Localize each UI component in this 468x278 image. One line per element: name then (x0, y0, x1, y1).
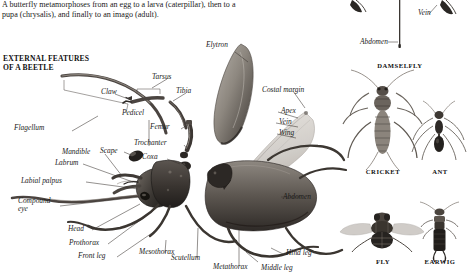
detached-trochanter (180, 152, 188, 158)
label-trochanter: Trochanter (134, 139, 167, 147)
label-abdomen-beetle: Abdomen (283, 193, 311, 201)
caption-damselfly: DAMSELFLY (350, 62, 450, 69)
label-tarsus: Tarsus (152, 73, 171, 81)
label-mesothorax: Mesothorax (139, 248, 174, 256)
label-tibia: Tibia (176, 87, 191, 95)
caption-earwig: EARWIG (415, 258, 465, 265)
earwig-figure (420, 202, 459, 262)
label-scape: Scape (100, 147, 118, 155)
label-middle-leg: Middle leg (261, 264, 293, 272)
label-vein-damselfly: Vein (418, 9, 431, 17)
detached-coxa (179, 161, 191, 170)
beetle-anatomy-page: A butterfly metamorphoses from an egg to… (0, 0, 468, 278)
label-labial-palpus: Labial palpus (21, 177, 62, 185)
beetle-head (113, 169, 173, 208)
detached-leg-tibia (169, 101, 186, 128)
label-abdomen-damselfly: Abdomen (360, 38, 388, 46)
label-apex: Apex (281, 107, 296, 115)
label-scutellum: Scutellum (171, 254, 200, 262)
membranous-wing (238, 111, 314, 190)
ant-figure (412, 101, 466, 160)
label-labrum: Labrum (55, 159, 78, 167)
label-flagellum: Flagellum (14, 124, 44, 132)
fly-figure (340, 213, 424, 253)
label-claw: Claw (101, 88, 117, 96)
label-coxa: Coxa (142, 153, 158, 161)
caption-cricket: CRICKET (352, 168, 414, 175)
intro-paragraph: A butterfly metamorphoses from an egg to… (2, 0, 252, 21)
caption-ant: ANT (421, 168, 459, 175)
label-hind-leg: Hind leg (286, 249, 312, 257)
prothorax-segment (151, 160, 190, 207)
label-compound-eye: Compound eye (18, 197, 62, 213)
label-mandible: Mandible (62, 148, 90, 156)
detached-femur (186, 120, 192, 150)
label-costal-margin: Costal margin (262, 86, 304, 94)
page-title: EXTERNAL FEATURES OF A BEETLE (3, 55, 123, 72)
cricket-figure (343, 70, 422, 170)
detached-leg-tarsus (123, 89, 163, 103)
label-femur: Femur (150, 123, 170, 131)
label-head: Head (68, 225, 84, 233)
section-title-line-2: OF A BEETLE (3, 63, 54, 72)
label-metathorax: Metathorax (213, 263, 247, 271)
label-vein-beetle: Vein (279, 118, 292, 126)
label-elytron: Elytron (206, 41, 228, 49)
label-pedicel: Pedicel (122, 109, 144, 117)
caption-fly: FLY (362, 258, 404, 265)
label-prothorax: Prothorax (69, 239, 99, 247)
label-wing: Wing (279, 129, 294, 137)
beetle-artwork (0, 0, 468, 278)
elytron-wingcase (214, 44, 253, 144)
label-front-leg: Front leg (78, 252, 105, 260)
